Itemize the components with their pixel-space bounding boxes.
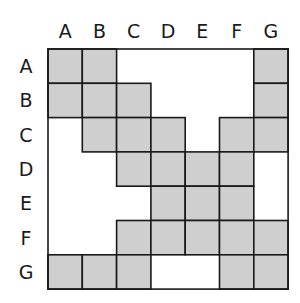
cell-b-a [48,83,82,117]
cell-f-c [117,221,151,255]
cell-d-e [185,152,219,186]
cell-f-g [254,221,288,255]
cell-a-b [82,49,116,83]
column-label-f: F [231,20,242,42]
row-label-d: D [19,158,34,180]
column-label-e: E [196,20,208,42]
column-label-a: A [59,20,72,42]
cell-c-b [82,118,116,152]
cell-e-d [151,186,185,220]
cell-g-a [48,255,82,289]
column-label-g: G [264,20,279,42]
cell-f-d [151,221,185,255]
cell-a-g [254,49,288,83]
cell-g-f [220,255,254,289]
cell-g-g [254,255,288,289]
column-labels: ABCDEFG [59,20,279,42]
cell-c-g [254,118,288,152]
cell-f-e [185,221,219,255]
cell-e-f [220,186,254,220]
cell-b-b [82,83,116,117]
row-label-e: E [20,192,32,214]
adjacency-grid-diagram: ABCDEFG ABCDEFG [0,0,300,303]
cell-c-f [220,118,254,152]
row-label-b: B [19,89,32,111]
cell-c-c [117,118,151,152]
cell-g-c [117,255,151,289]
cell-d-c [117,152,151,186]
column-label-c: C [127,20,140,42]
cell-e-e [185,186,219,220]
cell-f-f [220,221,254,255]
grid-cells [48,49,288,289]
cell-b-c [117,83,151,117]
column-label-b: B [93,20,106,42]
row-label-a: A [20,55,33,77]
cell-d-d [151,152,185,186]
cell-a-a [48,49,82,83]
row-labels: ABCDEFG [19,55,34,283]
row-label-g: G [19,261,34,283]
row-label-f: F [21,227,32,249]
cell-c-d [151,118,185,152]
column-label-d: D [161,20,176,42]
cell-g-b [82,255,116,289]
cell-b-g [254,83,288,117]
row-label-c: C [19,124,32,146]
cell-d-f [220,152,254,186]
